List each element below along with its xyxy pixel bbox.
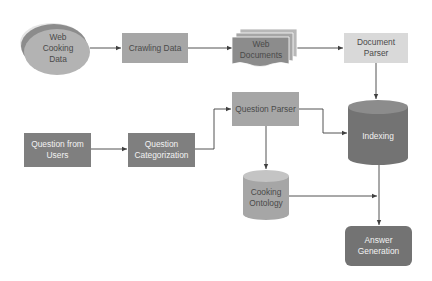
node-answer-generation[interactable]: Answer Generation bbox=[345, 226, 412, 266]
node-label-line2: Ontology bbox=[249, 198, 283, 208]
node-question-categorization[interactable]: Question Categorization bbox=[128, 133, 195, 167]
node-indexing[interactable]: Indexing bbox=[348, 100, 408, 165]
node-label-line1: Answer bbox=[365, 235, 393, 245]
cylinder-top bbox=[348, 100, 408, 114]
edge-qparser-to-indexing bbox=[299, 109, 347, 133]
node-label-line1: Question from bbox=[31, 139, 84, 149]
node-web-cooking-data[interactable]: Web Cooking Data bbox=[20, 23, 90, 75]
node-question-from-users[interactable]: Question from Users bbox=[24, 133, 91, 167]
node-label-line2: Parser bbox=[364, 48, 389, 58]
cylinder-top bbox=[243, 170, 289, 182]
node-label: Indexing bbox=[362, 131, 394, 141]
node-label-line3: Data bbox=[49, 54, 67, 64]
node-label: Question Parser bbox=[235, 104, 296, 114]
edge-qcateg-to-qparser bbox=[195, 109, 231, 149]
node-label-line1: Document bbox=[357, 37, 396, 47]
node-cooking-ontology[interactable]: Cooking Ontology bbox=[243, 170, 289, 220]
node-label-line2: Documents bbox=[240, 50, 282, 60]
node-question-parser[interactable]: Question Parser bbox=[232, 92, 299, 126]
node-label-line1: Question bbox=[145, 139, 179, 149]
node-label-line1: Cooking bbox=[251, 187, 282, 197]
node-label-line2: Generation bbox=[358, 246, 400, 256]
node-label-line2: Users bbox=[47, 150, 69, 160]
node-label: Crawling Data bbox=[129, 43, 182, 53]
node-label-line1: Web bbox=[49, 32, 66, 42]
node-crawling-data[interactable]: Crawling Data bbox=[122, 33, 188, 63]
flowchart-canvas: Web Cooking Data Crawling Data Web Docum… bbox=[0, 0, 432, 281]
node-document-parser[interactable]: Document Parser bbox=[344, 33, 408, 63]
node-label-line2: Cooking bbox=[43, 43, 74, 53]
node-label-line2: Categorization bbox=[134, 150, 188, 160]
node-web-documents[interactable]: Web Documents bbox=[232, 29, 297, 67]
node-label-line1: Web bbox=[252, 39, 269, 49]
